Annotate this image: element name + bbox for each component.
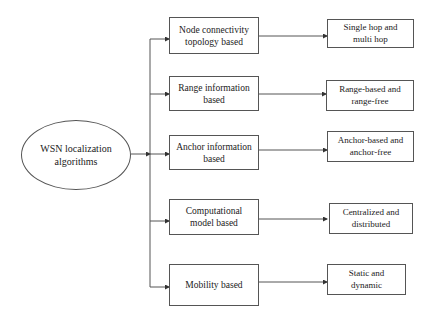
label-line2: model based — [186, 217, 242, 229]
label-line1: Computational — [186, 205, 242, 217]
result-centralized-distributed: Centralized and distributed — [329, 203, 413, 234]
result-static-dynamic: Static and dynamic — [327, 264, 406, 295]
category-anchor-information: Anchor information based — [169, 135, 259, 170]
label-line1: Single hop and — [344, 22, 398, 34]
category-computational-model: Computational model based — [169, 199, 259, 235]
label-line2: distributed — [343, 219, 400, 231]
label-line2: based — [178, 94, 250, 106]
result-anchor-based-free: Anchor-based and anchor-free — [327, 131, 414, 162]
result-range-based-free: Range-based and range-free — [326, 80, 414, 111]
root-node-wsn-localization: WSN localization algorithms — [21, 120, 131, 190]
label-line1: Static and — [349, 268, 385, 280]
label-line1: Range information — [178, 82, 250, 94]
label-line2: anchor-free — [338, 147, 404, 159]
label-line2: dynamic — [349, 280, 385, 292]
label-line1: Range-based and — [339, 84, 401, 96]
category-range-information: Range information based — [169, 76, 259, 111]
label-line2: based — [176, 153, 252, 165]
label-line1: Mobility based — [185, 279, 242, 291]
label-line2: topology based — [179, 36, 249, 48]
root-label-line2: algorithms — [40, 155, 111, 168]
label-line1: Node connectivity — [179, 24, 249, 36]
category-node-connectivity: Node connectivity topology based — [169, 17, 259, 54]
category-mobility: Mobility based — [169, 264, 259, 306]
label-line2: multi hop — [344, 34, 398, 46]
label-line2: range-free — [339, 96, 401, 108]
label-line1: Centralized and — [343, 207, 400, 219]
label-line1: Anchor-based and — [338, 135, 404, 147]
root-label-line1: WSN localization — [40, 142, 111, 155]
result-single-multi-hop: Single hop and multi hop — [327, 19, 414, 48]
label-line1: Anchor information — [176, 141, 252, 153]
